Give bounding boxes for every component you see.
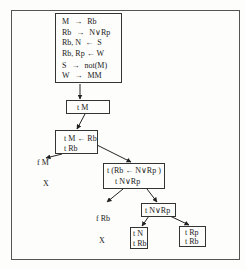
rule-3: Rb, N ← S: [62, 38, 102, 47]
leaf-closed-mark: X: [99, 236, 105, 245]
rule-arrow: →: [74, 71, 82, 80]
node-line: t N∨Rp: [115, 177, 140, 186]
node-line: t (Rb ← N∨Rp ): [107, 166, 161, 175]
rule-5: S → not(M): [62, 61, 107, 70]
node-line: t N: [133, 229, 143, 238]
rule-rhs: W: [97, 49, 105, 58]
tree-edges: [0, 0, 246, 270]
rule-rhs: not(M): [84, 61, 107, 70]
edge-n3-to-fRb: [107, 189, 123, 202]
node-t-n-t-rb: t N t Rb: [130, 227, 148, 249]
leaf-closed-mark: X: [43, 179, 49, 188]
leaf-f-rb: f Rb: [96, 214, 110, 223]
node-t-n-or-rp: t N∨Rp: [141, 203, 176, 217]
rule-arrow: →: [74, 17, 82, 26]
edge-n2-to-n3: [97, 145, 131, 162]
edge-n4-to-n6: [170, 216, 189, 225]
rule-2: Rb → N∨Rp: [62, 28, 110, 37]
node-t-m: t M: [66, 100, 110, 114]
rule-arrow: ←: [85, 38, 93, 47]
node-line: t Rb: [64, 144, 78, 153]
rule-arrow: →: [71, 61, 79, 70]
leaf-f-m: f M: [37, 158, 49, 167]
rule-lhs: Rb: [62, 28, 71, 37]
edge-n1-to-n2: [77, 114, 85, 129]
node-line: t Rp: [185, 228, 199, 237]
node-t-rb-implies-n-or-rp: t (Rb ← N∨Rp ) t N∨Rp: [103, 163, 165, 189]
rules-box: M → Rb Rb → N∨Rp Rb, N ← S Rb, Rp ← W S …: [55, 13, 122, 83]
rule-arrow: →: [76, 28, 84, 37]
rule-6: W → MM: [62, 71, 102, 80]
node-t-rp-t-rb: t Rp t Rb: [179, 226, 206, 247]
rule-rhs: MM: [87, 71, 101, 80]
rule-lhs: Rb, Rp: [62, 49, 85, 58]
rule-lhs: S: [62, 61, 66, 70]
rule-1: M → Rb: [62, 17, 96, 26]
edge-n4-to-n5: [142, 216, 149, 226]
node-t-m-implies-rb: t M ← Rb t Rb: [55, 130, 98, 154]
rule-lhs: Rb, N: [62, 38, 81, 47]
rule-rhs: Rb: [87, 17, 96, 26]
rule-rhs: N∨Rp: [89, 28, 110, 37]
node-line: t Rb: [133, 239, 147, 248]
edge-n3-to-n4: [147, 189, 157, 202]
node-line: t M: [77, 103, 88, 112]
rule-4: Rb, Rp ← W: [62, 49, 104, 58]
node-line: t Rb: [185, 237, 199, 246]
node-line: t N∨Rp: [145, 206, 170, 215]
rule-lhs: W: [62, 71, 69, 80]
rule-rhs: S: [97, 38, 101, 47]
rule-arrow: ←: [87, 49, 95, 58]
rule-lhs: M: [62, 17, 69, 26]
node-line: t M ← Rb: [64, 134, 97, 143]
